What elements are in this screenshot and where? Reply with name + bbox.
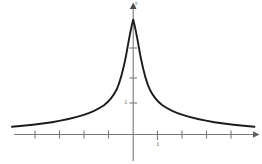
figure-root: y 1 1 xyxy=(0,0,262,164)
plot-canvas xyxy=(0,0,262,164)
y-axis-tick-label-1: 1 xyxy=(124,99,128,106)
x-axis-arrowhead xyxy=(253,131,260,138)
x-axis-tick-label-1: 1 xyxy=(156,141,160,148)
y-axis-name-label: y xyxy=(135,0,138,6)
